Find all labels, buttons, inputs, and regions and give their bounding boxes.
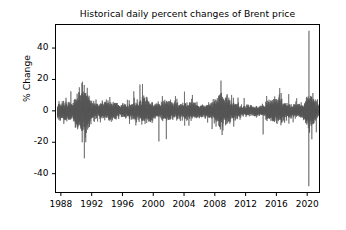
x-tick-label: 2008 — [200, 199, 230, 209]
y-tick-label: 20 — [23, 73, 49, 83]
x-tick-label: 2004 — [169, 199, 199, 209]
chart-figure: Historical daily percent changes of Bren… — [0, 0, 346, 230]
y-tick-label: -40 — [23, 168, 49, 178]
plot-area — [0, 0, 346, 230]
y-tick-label: 40 — [23, 42, 49, 52]
x-tick-label: 2020 — [292, 199, 322, 209]
y-tick-label: 0 — [23, 105, 49, 115]
y-tick-label: -20 — [23, 136, 49, 146]
x-tick-label: 1988 — [46, 199, 76, 209]
x-tick-label: 1992 — [77, 199, 107, 209]
x-tick-label: 2016 — [261, 199, 291, 209]
x-tick-label: 2000 — [138, 199, 168, 209]
x-tick-label: 1996 — [107, 199, 137, 209]
x-tick-label: 2012 — [231, 199, 261, 209]
